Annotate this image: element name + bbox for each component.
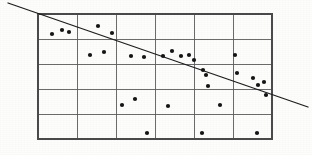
data-point — [262, 80, 266, 84]
data-point — [256, 83, 260, 87]
data-point — [233, 53, 237, 57]
data-point — [110, 31, 114, 35]
data-point — [166, 104, 170, 108]
data-point — [179, 54, 183, 58]
regression-trend-line — [8, 3, 308, 107]
data-point — [145, 131, 149, 135]
data-point — [161, 54, 165, 58]
data-point — [102, 50, 106, 54]
data-point — [218, 103, 222, 107]
data-point — [235, 71, 239, 75]
data-point-group — [50, 24, 268, 135]
data-point — [192, 58, 196, 62]
data-point — [170, 49, 174, 53]
data-point — [200, 131, 204, 135]
data-point — [251, 76, 255, 80]
data-point — [255, 131, 259, 135]
data-point — [88, 53, 92, 57]
scatter-plot-canvas — [0, 0, 312, 155]
data-point — [206, 84, 210, 88]
data-point — [264, 93, 268, 97]
scatter-plot-figure — [0, 0, 312, 155]
data-point — [204, 73, 208, 77]
data-point — [50, 32, 54, 36]
data-point — [187, 53, 191, 57]
data-point — [133, 97, 137, 101]
data-point — [142, 55, 146, 59]
plot-grid — [38, 14, 272, 139]
data-point — [60, 28, 64, 32]
data-point — [120, 103, 124, 107]
trend-line — [8, 3, 308, 107]
data-point — [67, 30, 71, 34]
data-point — [96, 24, 100, 28]
data-point — [129, 54, 133, 58]
data-point — [201, 68, 205, 72]
